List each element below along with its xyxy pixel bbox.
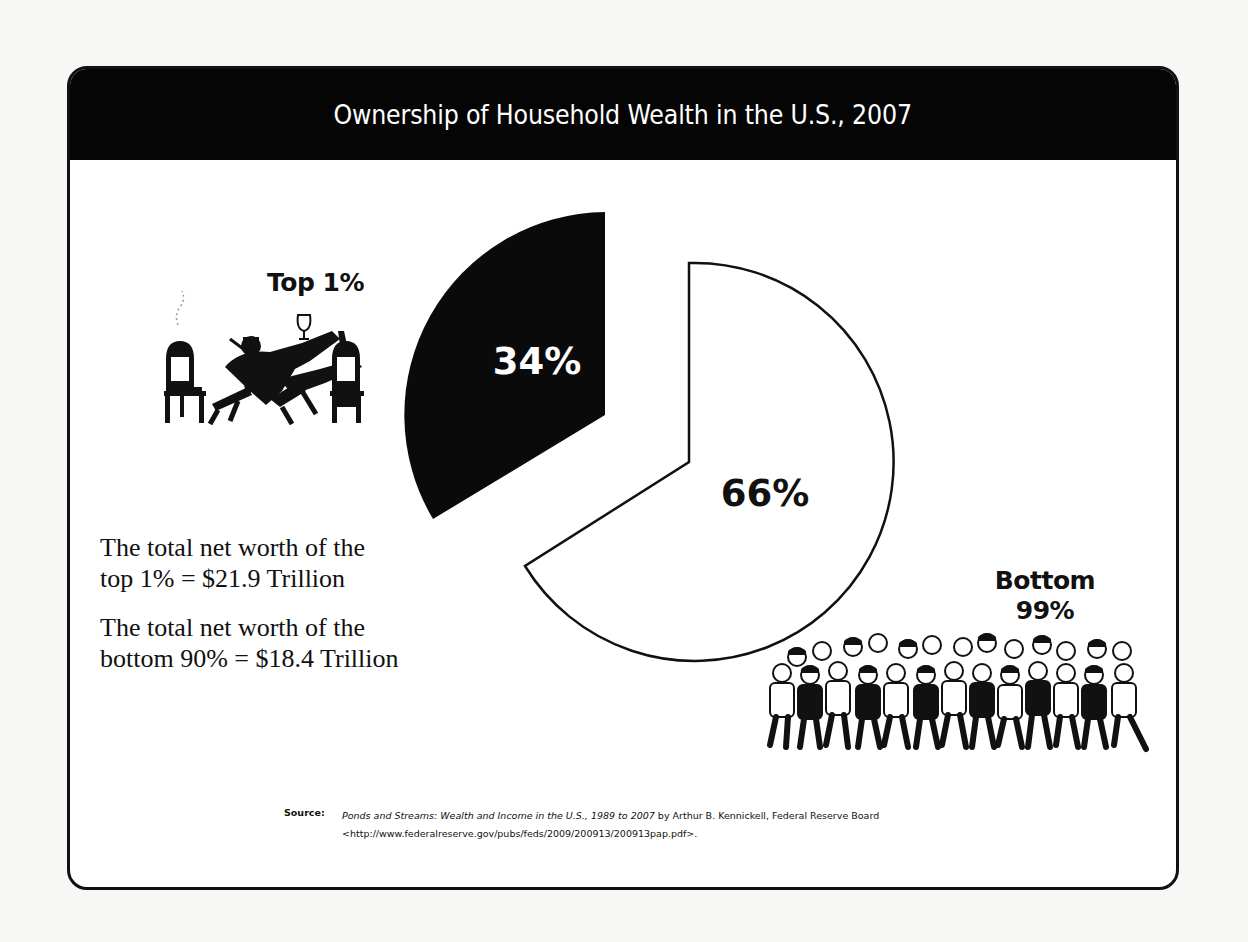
pie-chart: 34% 66%	[70, 69, 1176, 887]
slice-value-34: 34%	[493, 340, 582, 383]
bottom-label-line1: Bottom	[970, 566, 1120, 596]
source-citation: Source: Ponds and Streams: Wealth and In…	[284, 807, 879, 843]
top-1pct-label: Top 1%	[267, 270, 364, 295]
source-label: Source:	[284, 807, 342, 843]
stat-top-line2: top 1% = $21.9 Trillion	[100, 563, 365, 594]
source-url[interactable]: <http://www.federalreserve.gov/pubs/feds…	[342, 825, 879, 843]
stat-bottom-line2: bottom 90% = $18.4 Trillion	[100, 643, 399, 674]
source-text: Ponds and Streams: Wealth and Income in …	[342, 807, 879, 843]
source-byline: by Arthur B. Kennickell, Federal Reserve…	[655, 810, 879, 821]
stat-bottom-line1: The total net worth of the	[100, 612, 399, 643]
slice-value-66: 66%	[721, 472, 810, 515]
infographic-card: Ownership of Household Wealth in the U.S…	[67, 66, 1179, 890]
bottom-label-line2: 99%	[970, 596, 1120, 626]
businessman-lounging-on-chairs-icon	[164, 291, 364, 424]
seated-crowd-of-people-icon	[760, 633, 1160, 749]
stat-top-line1: The total net worth of the	[100, 532, 365, 563]
bottom-99pct-label: Bottom 99%	[970, 566, 1120, 626]
bottom-90pct-net-worth: The total net worth of the bottom 90% = …	[100, 612, 399, 674]
source-title: Ponds and Streams: Wealth and Income in …	[342, 810, 655, 821]
top-1pct-net-worth: The total net worth of the top 1% = $21.…	[100, 532, 365, 594]
